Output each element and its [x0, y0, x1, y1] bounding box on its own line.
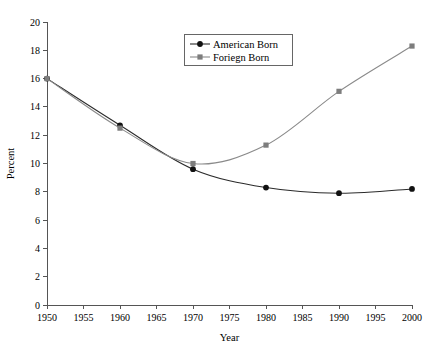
x-tick-label: 1995 [366, 312, 386, 323]
data-point-marker [117, 126, 122, 131]
data-point-marker [336, 89, 341, 94]
x-axis-title: Year [220, 332, 240, 343]
line-chart: 02468101214161820 1950195519601965197019… [0, 0, 430, 350]
legend-marker-sample [197, 54, 202, 59]
x-tick-label: 1980 [256, 312, 276, 323]
y-tick-label: 6 [35, 215, 40, 226]
y-tick-label: 20 [30, 17, 40, 28]
y-tick-label: 10 [30, 158, 40, 169]
x-tick-label: 1990 [329, 312, 349, 323]
y-tick-label: 0 [35, 300, 40, 311]
data-point-marker [44, 76, 49, 81]
chart-container: 02468101214161820 1950195519601965197019… [0, 0, 430, 350]
legend-label: Foriegn Born [213, 52, 270, 63]
x-tick-label: 2000 [402, 312, 422, 323]
y-tick-label: 14 [30, 101, 40, 112]
data-point-marker [263, 143, 268, 148]
data-point-marker [190, 161, 195, 166]
y-tick-label: 4 [35, 243, 40, 254]
x-tick-label: 1965 [147, 312, 167, 323]
chart-legend: American BornForiegn Born [184, 34, 292, 65]
x-tick-label: 1975 [220, 312, 240, 323]
y-axis-title: Percent [5, 148, 16, 180]
y-tick-label: 16 [30, 73, 40, 84]
x-tick-label: 1985 [293, 312, 313, 323]
legend-label: American Born [213, 39, 279, 50]
y-tick-label: 8 [35, 186, 40, 197]
x-tick-label: 1950 [37, 312, 57, 323]
data-point-marker [190, 166, 196, 172]
x-tick-label: 1955 [74, 312, 94, 323]
data-point-marker [409, 43, 414, 48]
data-point-marker [336, 190, 342, 196]
y-tick-label: 18 [30, 45, 40, 56]
legend-marker-sample [197, 41, 203, 47]
x-tick-label: 1970 [183, 312, 203, 323]
y-tick-label: 2 [35, 271, 40, 282]
y-tick-label: 12 [30, 130, 40, 141]
data-point-marker [409, 186, 415, 192]
x-tick-label: 1960 [110, 312, 130, 323]
data-point-marker [263, 185, 269, 191]
